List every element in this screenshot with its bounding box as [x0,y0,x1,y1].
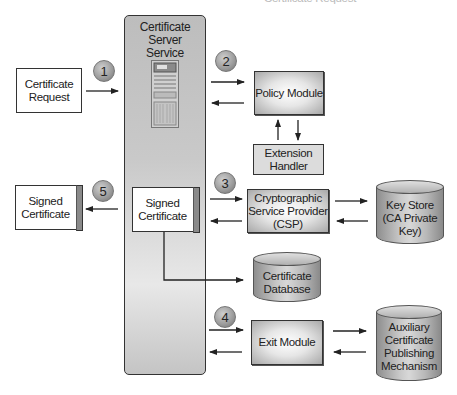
connector-arrows [0,0,457,395]
